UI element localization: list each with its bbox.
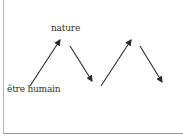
arrow-up-1: [30, 40, 60, 86]
arrow-up-3: [101, 40, 131, 86]
zigzag-arrows-diagram: [0, 0, 183, 138]
arrow-down-2: [70, 46, 92, 81]
label-etre-humain: être humain: [7, 84, 60, 94]
arrow-down-4: [140, 46, 162, 82]
label-nature: nature: [51, 23, 80, 33]
